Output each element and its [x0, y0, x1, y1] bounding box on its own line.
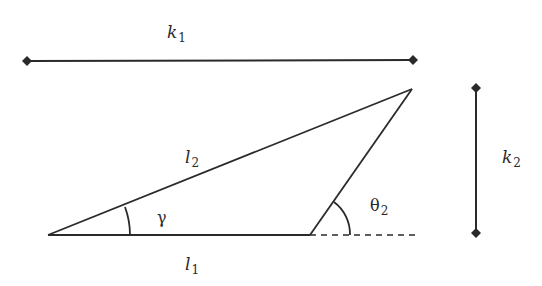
k1-right-diamond-icon — [408, 55, 418, 65]
label-l1-symbol: l — [185, 254, 190, 274]
label-theta2: θ2 — [370, 198, 388, 217]
label-l2: l2 — [185, 149, 199, 169]
label-k2-subscript: 2 — [513, 156, 521, 170]
k1-dimension-line — [27, 60, 413, 61]
label-k2-symbol: k — [502, 147, 512, 167]
label-theta2-symbol: θ — [370, 196, 380, 215]
label-k1: k1 — [167, 24, 186, 44]
label-l1-subscript: 1 — [191, 263, 199, 277]
label-gamma: γ — [157, 210, 167, 226]
label-gamma-symbol: γ — [157, 208, 167, 227]
k2-bottom-diamond-icon — [471, 228, 481, 238]
k2-top-diamond-icon — [471, 83, 481, 93]
label-l2-subscript: 2 — [191, 156, 199, 170]
diagram-graphics — [0, 0, 542, 286]
angle-theta2-arc — [334, 202, 350, 235]
side-right — [310, 89, 412, 235]
label-l1: l1 — [185, 256, 199, 276]
angle-gamma-arc — [125, 207, 130, 235]
label-k1-subscript: 1 — [178, 31, 186, 45]
label-k1-symbol: k — [167, 22, 177, 42]
label-l2-symbol: l — [185, 147, 190, 167]
k1-left-diamond-icon — [22, 56, 32, 66]
label-k2: k2 — [502, 149, 521, 169]
side-l2 — [48, 89, 412, 235]
triangle-diagram: k1 k2 l2 l1 γ θ2 — [0, 0, 542, 286]
label-theta2-subscript: 2 — [381, 204, 389, 218]
